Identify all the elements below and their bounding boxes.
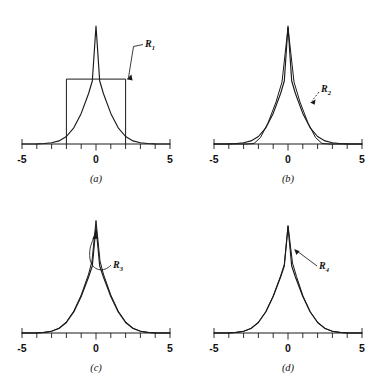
gaussian-curve-b — [214, 26, 362, 144]
axis-label-right-c: 5 — [167, 342, 173, 354]
x-axis-ticks-c — [37, 333, 155, 340]
gaussian-curve-d — [214, 227, 362, 333]
gaussian-curve-c — [22, 227, 170, 333]
rect-pulse-r1 — [66, 79, 125, 144]
panel-b: R2 -5 0 5 (b) — [192, 0, 384, 189]
axis-label-center-c: 0 — [93, 342, 99, 354]
panel-caption-c: (c) — [90, 362, 102, 374]
axis-label-left-a: -5 — [17, 153, 26, 165]
curve-label-r1: R1 — [144, 38, 155, 51]
axis-label-left-d: -5 — [209, 342, 218, 354]
curve-label-r3: R3 — [112, 259, 124, 272]
axis-label-right-b: 5 — [359, 153, 365, 165]
r4-arrowhead — [294, 249, 299, 255]
axis-label-center-b: 0 — [285, 153, 291, 165]
curve-label-r4: R4 — [318, 260, 330, 273]
approx-curve-r2 — [214, 28, 362, 145]
r4-leader — [297, 251, 317, 266]
r2-leader — [312, 92, 319, 101]
r1-leader-tail — [134, 45, 144, 47]
r1-arrowhead — [127, 75, 133, 81]
x-axis-ticks-b — [229, 144, 347, 151]
panel-d-plot: R4 -5 0 5 (d) — [192, 189, 384, 378]
axis-label-center-a: 0 — [93, 153, 99, 165]
axis-label-right-a: 5 — [167, 153, 173, 165]
panel-caption-a: (a) — [90, 173, 103, 185]
r1-leader — [129, 47, 134, 78]
panel-caption-d: (d) — [282, 362, 295, 374]
panel-caption-b: (b) — [282, 173, 295, 185]
panel-a-plot: R1 -5 0 5 (a) — [0, 0, 192, 189]
r2-arrowhead — [310, 100, 315, 105]
figure-root: R1 -5 0 5 (a) — [0, 0, 384, 378]
axis-label-left-b: -5 — [209, 153, 218, 165]
x-axis-ticks-a — [37, 144, 155, 151]
x-axis-ticks-d — [229, 333, 347, 340]
approx-curve-r4 — [214, 226, 362, 334]
axis-label-right-d: 5 — [359, 342, 365, 354]
panel-d: R4 -5 0 5 (d) — [192, 189, 384, 378]
panel-c-plot: R3 -5 0 5 (c) — [0, 189, 192, 378]
panel-c: R3 -5 0 5 (c) — [0, 189, 192, 378]
panel-b-plot: R2 -5 0 5 (b) — [192, 0, 384, 189]
axis-label-left-c: -5 — [17, 342, 26, 354]
panel-a: R1 -5 0 5 (a) — [0, 0, 192, 189]
curve-label-r2: R2 — [320, 83, 332, 96]
axis-label-center-d: 0 — [285, 342, 291, 354]
